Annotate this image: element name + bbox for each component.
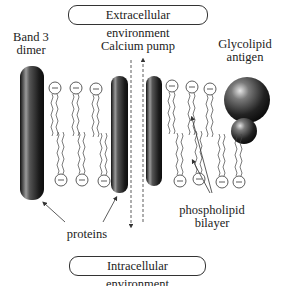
proteins-arrow-right bbox=[103, 198, 116, 222]
glycolipid-sphere-large bbox=[224, 77, 270, 123]
membrane-diagram bbox=[0, 0, 283, 286]
protein-right-of-pump bbox=[146, 76, 162, 186]
proteins-arrow-left bbox=[44, 203, 65, 222]
phospholipid-bilayer-label: phospholipid bilayer bbox=[176, 204, 248, 230]
protein-left-of-pump bbox=[111, 76, 128, 193]
band3-protein bbox=[20, 66, 44, 200]
phospholipid-label-line2: bilayer bbox=[176, 217, 248, 230]
glycolipid-sphere-small bbox=[231, 118, 257, 144]
proteins-label: proteins bbox=[63, 228, 111, 241]
phospholipid-bottom-left-group bbox=[55, 132, 110, 187]
intracellular-environment-label: Intracellular environment bbox=[69, 256, 206, 276]
phospholipid-top-right-group bbox=[166, 80, 216, 137]
phospholipid-top-left-group bbox=[49, 82, 102, 137]
